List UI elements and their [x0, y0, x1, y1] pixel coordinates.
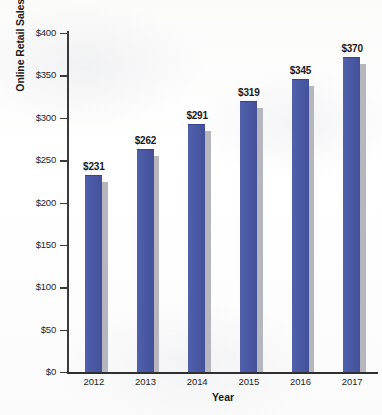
y-axis-tick: [60, 75, 68, 76]
y-axis-tick: [60, 118, 68, 119]
bar-value-label: $291: [171, 110, 223, 121]
bar-value-label: $231: [68, 161, 120, 172]
y-axis-tick-label: $400: [10, 27, 56, 38]
x-axis-tick-label: 2015: [223, 376, 275, 387]
bar-group[interactable]: $291: [171, 33, 223, 372]
y-axis-tick: [60, 330, 68, 331]
x-axis-tick-label: 2016: [275, 376, 327, 387]
x-axis-tick-label: 2014: [171, 376, 223, 387]
bar-group[interactable]: $345: [275, 33, 327, 372]
y-axis-tick-label: $50: [10, 324, 56, 335]
bar-group[interactable]: $231: [68, 33, 120, 372]
x-axis-tick-label: 2017: [326, 376, 378, 387]
y-axis-tick: [60, 245, 68, 246]
bar-group[interactable]: $319: [223, 33, 275, 372]
bar[interactable]: [137, 149, 154, 372]
bar-value-label: $319: [223, 87, 275, 98]
x-axis-tick-label: 2013: [120, 376, 172, 387]
x-axis-line: [67, 372, 378, 374]
y-axis-tick-label: $250: [10, 154, 56, 165]
plot-area: $231$262$291$319$345$370: [68, 33, 378, 372]
bar-value-label: $370: [326, 43, 378, 54]
bar[interactable]: [85, 175, 102, 372]
x-axis-title: Year: [68, 391, 378, 403]
y-axis-tick-label: $150: [10, 239, 56, 250]
y-axis-tick: [60, 287, 68, 288]
bar[interactable]: [343, 57, 360, 372]
y-axis-tick: [60, 203, 68, 204]
y-axis-tick-label: $100: [10, 281, 56, 292]
bar-value-label: $345: [275, 65, 327, 76]
bar[interactable]: [188, 124, 205, 372]
y-axis-tick-label: $350: [10, 69, 56, 80]
y-axis-tick: [60, 160, 68, 161]
y-axis-tick-label: $0: [10, 366, 56, 377]
bar[interactable]: [240, 101, 257, 372]
y-axis-tick-label: $200: [10, 197, 56, 208]
bar-group[interactable]: $370: [326, 33, 378, 372]
bar-value-label: $262: [120, 135, 172, 146]
bar-group[interactable]: $262: [120, 33, 172, 372]
y-axis-tick-label: $300: [10, 112, 56, 123]
y-axis-tick: [60, 33, 68, 34]
x-axis-tick-label: 2012: [68, 376, 120, 387]
bar[interactable]: [292, 79, 309, 372]
bar-chart-figure: Online Retail Sales (in Billions) $0$50$…: [0, 0, 382, 415]
y-axis-tick: [60, 372, 68, 373]
